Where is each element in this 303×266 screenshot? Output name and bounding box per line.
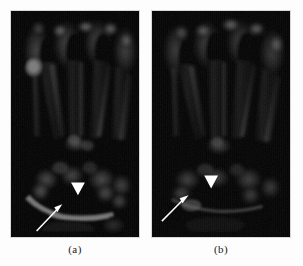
mri-image-b — [152, 11, 290, 237]
mri-panel-a[interactable] — [10, 10, 140, 238]
noise-texture — [152, 11, 290, 237]
noise-texture — [11, 11, 139, 237]
panel-caption-a: (a) — [40, 243, 110, 255]
figure-container: (a) (b) — [0, 0, 303, 266]
mri-image-a — [11, 11, 139, 237]
mri-panel-b[interactable] — [151, 10, 291, 238]
panel-caption-b: (b) — [186, 243, 256, 255]
